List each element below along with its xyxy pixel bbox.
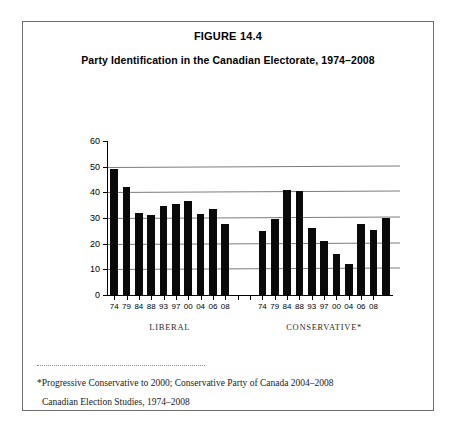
x-axis-tick-label: 88 bbox=[295, 302, 304, 311]
x-axis-tick bbox=[262, 296, 263, 300]
x-axis-tick bbox=[373, 296, 374, 300]
x-axis-tick-label: 84 bbox=[283, 302, 292, 311]
y-axis-tick-label: 40 bbox=[90, 187, 100, 197]
x-axis-tick bbox=[188, 296, 189, 300]
y-axis-tick-label: 50 bbox=[90, 162, 100, 172]
x-axis-tick bbox=[312, 296, 313, 300]
x-axis-tick-label: 97 bbox=[171, 302, 180, 311]
x-axis-tick bbox=[336, 296, 337, 300]
bar bbox=[382, 218, 390, 295]
x-axis-tick bbox=[275, 296, 276, 300]
x-axis-tick bbox=[151, 296, 152, 300]
bar bbox=[172, 204, 180, 295]
x-axis-tick-label: 93 bbox=[307, 302, 316, 311]
x-axis-tick-label: 88 bbox=[147, 302, 156, 311]
footnote-source: Canadian Election Studies, 1974–2008 bbox=[42, 397, 190, 407]
y-axis-tick-label: 30 bbox=[90, 213, 100, 223]
bar bbox=[296, 191, 304, 295]
x-axis-tick bbox=[225, 296, 226, 300]
x-axis-tick-label: 08 bbox=[369, 302, 378, 311]
y-axis-tick-label: 60 bbox=[90, 136, 100, 146]
x-axis-tick-label: 84 bbox=[134, 302, 143, 311]
x-axis-tick-label: 00 bbox=[184, 302, 193, 311]
x-axis-tick bbox=[299, 296, 300, 300]
x-axis-tick-label: 08 bbox=[221, 302, 230, 311]
plot-area: 0102030405060 74798488939700040608747984… bbox=[107, 141, 393, 296]
y-axis-tick-label: 0 bbox=[95, 290, 100, 300]
figure-number: FIGURE 14.4 bbox=[23, 30, 433, 42]
x-axis-tick-label: 06 bbox=[357, 302, 366, 311]
x-axis-tick bbox=[349, 296, 350, 300]
x-axis-tick bbox=[139, 296, 140, 300]
x-axis-tick bbox=[176, 296, 177, 300]
x-axis-tick-label: 00 bbox=[332, 302, 341, 311]
bar bbox=[135, 213, 143, 295]
bar bbox=[110, 169, 118, 295]
gridline bbox=[108, 191, 400, 194]
x-axis-tick-label: 04 bbox=[196, 302, 205, 311]
bar bbox=[308, 228, 316, 295]
x-axis-tick bbox=[324, 296, 325, 300]
x-axis-tick-label: 74 bbox=[258, 302, 267, 311]
footnote-divider bbox=[37, 365, 205, 367]
bar bbox=[357, 224, 365, 295]
footnote-asterisk: *Progressive Conservative to 2000; Conse… bbox=[37, 378, 334, 388]
bar bbox=[271, 219, 279, 295]
x-axis-tick bbox=[287, 296, 288, 300]
bar-chart: 0102030405060 74798488939700040608747984… bbox=[59, 130, 409, 320]
x-axis-tick-label: 74 bbox=[110, 302, 119, 311]
y-axis-tick bbox=[103, 295, 108, 296]
x-axis-tick bbox=[238, 296, 239, 300]
x-axis-tick-label: 06 bbox=[209, 302, 218, 311]
y-axis-tick-label: 20 bbox=[90, 239, 100, 249]
x-axis-tick bbox=[201, 296, 202, 300]
x-axis-tick-label: 04 bbox=[344, 302, 353, 311]
y-axis-tick bbox=[103, 141, 108, 142]
bar bbox=[184, 201, 192, 295]
figure-title: Party Identification in the Canadian Ele… bbox=[23, 54, 433, 66]
y-axis-tick-label: 10 bbox=[90, 264, 100, 274]
x-axis-tick bbox=[361, 296, 362, 300]
bar bbox=[283, 190, 291, 295]
bar bbox=[221, 224, 229, 295]
gridline bbox=[108, 165, 400, 168]
figure-frame: FIGURE 14.4 Party Identification in the … bbox=[22, 21, 434, 411]
bar bbox=[320, 241, 328, 295]
x-axis-tick-label: 93 bbox=[159, 302, 168, 311]
bar bbox=[259, 231, 267, 295]
x-axis-tick bbox=[213, 296, 214, 300]
bar bbox=[123, 187, 131, 295]
bar bbox=[345, 264, 353, 295]
bar bbox=[197, 214, 205, 295]
x-axis-tick bbox=[127, 296, 128, 300]
x-axis-tick-label: 79 bbox=[122, 302, 131, 311]
group-label: LIBERAL bbox=[149, 322, 190, 332]
group-label: CONSERVATIVE* bbox=[286, 322, 362, 332]
bar bbox=[333, 254, 341, 295]
x-axis-tick bbox=[164, 296, 165, 300]
x-axis-tick bbox=[114, 296, 115, 300]
x-axis-tick-label: 97 bbox=[320, 302, 329, 311]
bar bbox=[209, 209, 217, 295]
bar bbox=[147, 215, 155, 295]
bar bbox=[370, 230, 378, 295]
x-axis-tick-label: 79 bbox=[270, 302, 279, 311]
x-axis-tick bbox=[250, 296, 251, 300]
bar bbox=[160, 206, 168, 295]
